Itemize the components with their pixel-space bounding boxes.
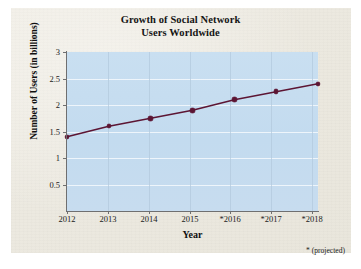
chart-title-line-2: Users Worldwide <box>0 27 361 40</box>
chart-title-line-1: Growth of Social Network <box>0 14 361 27</box>
projected-footnote: * (projected) <box>306 246 345 255</box>
x-tick-label-2016: *2016 <box>208 214 252 224</box>
data-point-2016 <box>232 97 237 102</box>
x-axis-line <box>66 211 319 212</box>
plot-area <box>67 52 318 211</box>
y-axis-line <box>66 51 67 212</box>
y-tick-label-1: 1 <box>20 153 60 163</box>
x-tick-label-2012: 2012 <box>45 214 89 224</box>
y-tick-label-0-5: 0.5 <box>20 180 60 190</box>
y-tick-label-3: 3 <box>20 47 60 57</box>
y-tick-label-2-5: 2.5 <box>20 74 60 84</box>
data-line <box>67 52 318 211</box>
data-point-2014 <box>148 116 153 121</box>
y-tick-label-2: 2 <box>20 100 60 110</box>
x-tick-label-2017: *2017 <box>249 214 293 224</box>
chart-title: Growth of Social Network Users Worldwide <box>0 14 361 39</box>
data-point-2015 <box>190 108 195 113</box>
x-tick-label-2014: 2014 <box>127 214 171 224</box>
x-tick-label-2013: 2013 <box>86 214 130 224</box>
x-tick-label-2015: 2015 <box>168 214 212 224</box>
x-tick-label-2018: *2018 <box>290 214 334 224</box>
x-axis-title: Year <box>67 229 318 240</box>
figure-page: Growth of Social Network Users Worldwide… <box>0 0 361 269</box>
y-tick-label-1-5: 1.5 <box>20 127 60 137</box>
